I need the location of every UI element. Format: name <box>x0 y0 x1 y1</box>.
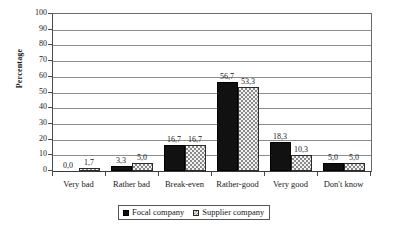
checkered-swatch <box>193 210 199 216</box>
legend-item-label: Focal company <box>132 208 184 217</box>
y-axis-tick-label: 50 <box>19 88 47 96</box>
bar-group: 16,716,7 <box>159 14 212 171</box>
bar-supplier[interactable] <box>238 87 259 171</box>
bar-supplier[interactable] <box>79 168 100 171</box>
legend-item[interactable]: Focal company <box>123 208 184 217</box>
y-axis-tick-label: 100 <box>19 9 47 17</box>
bar-value-label: 18,3 <box>268 133 292 141</box>
bar-value-label: 1,7 <box>77 159 101 167</box>
y-axis-tick-label: 60 <box>19 72 47 80</box>
bar-supplier[interactable] <box>185 145 206 171</box>
x-axis-tick-mark <box>52 172 53 176</box>
bar-focal[interactable] <box>111 166 132 171</box>
bar-group: 0,01,7 <box>53 14 106 171</box>
x-axis-tick-mark <box>317 172 318 176</box>
x-axis-tick-mark <box>211 172 212 176</box>
y-axis-tick-label: 10 <box>19 150 47 158</box>
x-axis-category-label: Break-even <box>158 179 211 189</box>
x-axis-tick-mark <box>264 172 265 176</box>
x-axis-category-label: Don't know <box>317 179 370 189</box>
y-axis-tick-label: 70 <box>19 56 47 64</box>
bar-focal[interactable] <box>164 145 185 171</box>
y-axis-tick-label: 90 <box>19 25 47 33</box>
bar-value-label: 5,0 <box>130 154 154 162</box>
y-axis-tick-label: 0 <box>19 166 47 174</box>
x-axis-category-label: Rather bad <box>105 179 158 189</box>
bar-series-container: 0,01,73,35,016,716,756,753,318,310,35,05… <box>53 14 371 171</box>
bar-focal[interactable] <box>270 142 291 171</box>
x-axis-category-label: Very bad <box>52 179 105 189</box>
bar-value-label: 16,7 <box>183 136 207 144</box>
legend-item[interactable]: Supplier company <box>193 208 264 217</box>
bar-supplier[interactable] <box>132 163 153 171</box>
bar-group: 3,35,0 <box>106 14 159 171</box>
bar-group: 56,753,3 <box>212 14 265 171</box>
x-axis-tick-mark <box>105 172 106 176</box>
bar-value-label: 53,3 <box>236 78 260 86</box>
bar-group: 5,05,0 <box>318 14 371 171</box>
bar-value-label: 10,3 <box>289 146 313 154</box>
bar-focal[interactable] <box>323 163 344 171</box>
x-axis-category-label: Rather-good <box>211 179 264 189</box>
y-axis-tick-label: 20 <box>19 135 47 143</box>
bar-value-label: 5,0 <box>342 154 366 162</box>
bar-focal[interactable] <box>217 82 238 171</box>
legend-item-label: Supplier company <box>202 208 264 217</box>
bar-chart: Percentage 1009080706050403020100 0,01,7… <box>0 0 394 236</box>
x-axis-category-label: Very good <box>264 179 317 189</box>
solid-black-swatch <box>123 210 129 216</box>
bar-supplier[interactable] <box>291 155 312 171</box>
y-axis-tick-label: 80 <box>19 40 47 48</box>
x-axis-tick-mark <box>370 172 371 176</box>
chart-legend: Focal companySupplier company <box>118 205 270 220</box>
x-axis-tick-mark <box>158 172 159 176</box>
bar-supplier[interactable] <box>344 163 365 171</box>
y-axis-tick-label: 30 <box>19 119 47 127</box>
y-axis-tick-label: 40 <box>19 103 47 111</box>
bar-group: 18,310,3 <box>265 14 318 171</box>
